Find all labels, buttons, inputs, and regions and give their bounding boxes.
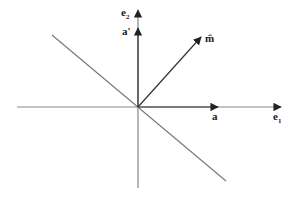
label-a-prime: a' xyxy=(122,25,131,37)
diagonal-line xyxy=(52,35,226,181)
label-m-hat: m̂ xyxy=(205,32,214,44)
vector-m-hat xyxy=(138,37,201,107)
label-a: a xyxy=(212,110,218,122)
diagram-canvas: e2 a' m̂ a e1 xyxy=(0,0,295,198)
label-e2: e2 xyxy=(121,6,130,21)
label-e1: e1 xyxy=(273,110,282,125)
